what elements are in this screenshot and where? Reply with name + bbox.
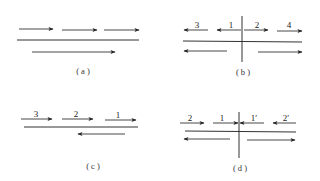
label-3: 3 (34, 109, 39, 119)
panel-c: 3 2 1 ( c ) (21, 109, 138, 171)
caption-b: ( b ) (236, 67, 250, 77)
panel-b: 3 1 2 4 ( b ) (183, 16, 302, 77)
label-1-prime: 1′ (251, 113, 258, 123)
label-1: 1 (220, 113, 225, 123)
label-2: 2 (188, 113, 193, 123)
panel-d: 2 1 1′ 2′ ( d ) (180, 112, 296, 173)
caption-c: ( c ) (86, 161, 100, 171)
label-2: 2 (74, 109, 79, 119)
caption-a: ( a ) (76, 66, 90, 76)
label-2: 2 (255, 20, 260, 30)
label-3: 3 (195, 20, 200, 30)
panel-a: ( a ) (17, 29, 139, 76)
road-line (185, 131, 296, 132)
label-4: 4 (287, 20, 292, 30)
traffic-flow-diagram: ( a ) 3 1 2 4 ( b ) 3 2 1 ( c ) (0, 0, 320, 181)
label-2-prime: 2′ (283, 113, 290, 123)
label-1: 1 (229, 20, 234, 30)
label-1: 1 (116, 110, 121, 120)
caption-d: ( d ) (233, 163, 247, 173)
